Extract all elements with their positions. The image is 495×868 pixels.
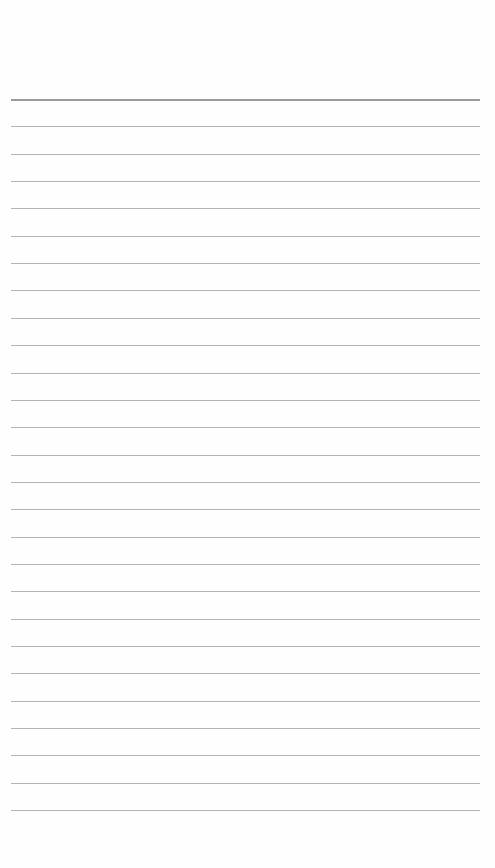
rule-line	[11, 591, 480, 592]
rule-line	[11, 154, 480, 155]
rule-line	[11, 427, 480, 428]
rule-line	[11, 564, 480, 565]
rule-line	[11, 755, 480, 756]
rule-line	[11, 263, 480, 264]
rule-line	[11, 482, 480, 483]
rule-line	[11, 181, 480, 182]
rule-line	[11, 345, 480, 346]
rule-line	[11, 619, 480, 620]
rule-line	[11, 728, 480, 729]
rule-line	[11, 810, 480, 811]
rule-line	[11, 236, 480, 237]
rule-line	[11, 290, 480, 291]
rule-line	[11, 400, 480, 401]
lined-paper-page	[0, 0, 495, 868]
rule-line	[11, 783, 480, 784]
rule-line	[11, 455, 480, 456]
rule-line	[11, 509, 480, 510]
rule-line	[11, 373, 480, 374]
rule-line	[11, 673, 480, 674]
rule-line	[11, 126, 480, 127]
rule-line	[11, 537, 480, 538]
rule-line	[11, 318, 480, 319]
rule-line	[11, 701, 480, 702]
rule-line	[11, 208, 480, 209]
header-rule-line	[11, 99, 480, 101]
rule-line	[11, 646, 480, 647]
